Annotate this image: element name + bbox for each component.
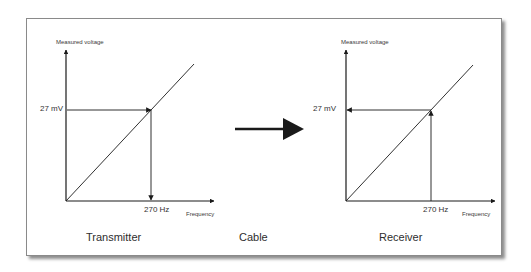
transmitter-voltage-label: 27 mV [40, 105, 63, 113]
transmitter-frequency-label: 270 Hz [144, 206, 169, 214]
transmitter-x-axis-label: Frequency [186, 211, 214, 217]
cable-arrow-icon [235, 118, 304, 140]
receiver-response-line [346, 65, 473, 201]
receiver-voltage-label: 27 mV [313, 105, 336, 113]
receiver-y-axis-label: Measured voltage [341, 39, 389, 45]
transmitter-caption: Transmitter [86, 232, 141, 243]
transmitter-y-axis-label: Measured voltage [56, 39, 104, 45]
receiver-caption: Receiver [379, 232, 422, 243]
receiver-graph [346, 50, 495, 201]
cable-caption: Cable [239, 232, 268, 243]
transmitter-response-line [66, 64, 194, 201]
receiver-frequency-label: 270 Hz [423, 206, 448, 214]
receiver-x-axis-label: Frequency [462, 211, 490, 217]
transmitter-graph [66, 50, 214, 201]
